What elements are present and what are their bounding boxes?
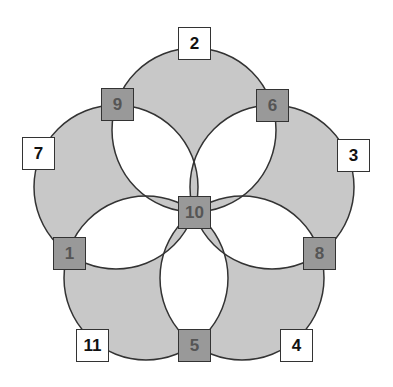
- node-10: 10: [178, 196, 211, 229]
- node-9: 9: [101, 88, 134, 121]
- node-1: 1: [53, 237, 86, 270]
- node-4: 4: [280, 329, 313, 362]
- node-2: 2: [178, 27, 211, 60]
- node-3: 3: [337, 139, 370, 172]
- node-11: 11: [76, 329, 109, 362]
- node-8: 8: [303, 237, 336, 270]
- node-5: 5: [178, 329, 211, 362]
- node-7: 7: [22, 137, 55, 170]
- node-6: 6: [256, 89, 289, 122]
